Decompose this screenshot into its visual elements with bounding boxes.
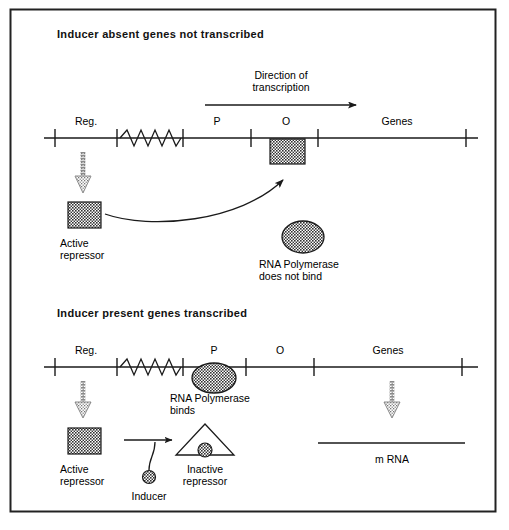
operon-regulation-diagram: Inducer absent genes not transcribed Dir… [0, 0, 509, 530]
inducer-bound-dot [198, 443, 212, 457]
rna-polymerase-label-line1-bottom: RNA Polymerase [170, 392, 250, 404]
site-label-promoter-bottom: P [210, 344, 217, 356]
rna-polymerase-label-line1-top: RNA Polymerase [259, 258, 339, 270]
inducer-label: Inducer [131, 490, 167, 502]
bound-repressor-block [270, 139, 305, 164]
rna-polymerase-label-line2-top: does not bind [259, 270, 322, 282]
inactive-repressor-label-line1: Inactive [187, 463, 223, 475]
figure-root: Inducer absent genes not transcribed Dir… [0, 0, 509, 530]
panel-top-heading: Inducer absent genes not transcribed [57, 28, 264, 40]
direction-label-line1: Direction of [254, 69, 307, 81]
active-repressor-label-line1-bottom: Active [60, 463, 89, 475]
site-label-reg-top: Reg. [75, 115, 97, 127]
direction-label-line2: transcription [252, 81, 309, 93]
inducer-dot [143, 471, 156, 484]
rna-polymerase-ellipse-top [282, 221, 324, 253]
active-repressor-square-bottom [68, 428, 101, 454]
active-repressor-label-line2-top: repressor [60, 249, 105, 261]
active-repressor-label-line2-bottom: repressor [60, 475, 105, 487]
site-label-reg-bottom: Reg. [75, 344, 97, 356]
active-repressor-square-top [68, 202, 101, 228]
rna-polymerase-label-line2-bottom: binds [170, 404, 195, 416]
site-label-operator-top: O [282, 115, 290, 127]
inactive-repressor-label-line2: repressor [183, 475, 228, 487]
site-label-operator-bottom: O [276, 344, 284, 356]
site-label-genes-top: Genes [382, 115, 413, 127]
site-label-promoter-top: P [213, 115, 220, 127]
mrna-label: m RNA [375, 453, 409, 465]
site-label-genes-bottom: Genes [373, 344, 404, 356]
active-repressor-label-line1-top: Active [60, 237, 89, 249]
panel-bottom-heading: Inducer present genes transcribed [57, 307, 247, 319]
rna-polymerase-ellipse-bottom [192, 363, 236, 393]
